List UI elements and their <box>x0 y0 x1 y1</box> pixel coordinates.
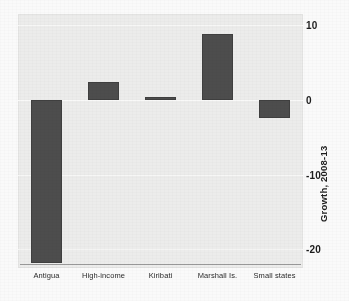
x-tick-label-high-income: High-income <box>82 271 125 280</box>
bar-high-income <box>88 82 119 100</box>
x-tick-label-antigua: Antigua <box>33 271 59 280</box>
chart-figure: 100-10-20 Growth, 2008-13 AntiguaHigh-in… <box>0 0 349 301</box>
x-tick-label-kiribati: Kiribati <box>149 271 173 280</box>
bar-series <box>18 14 303 268</box>
category-axis-line <box>20 264 301 265</box>
y-tick-label-0: 0 <box>306 94 312 105</box>
x-tick-label-small-states: Small states <box>253 271 295 280</box>
y-tick-label--20: -20 <box>306 244 321 255</box>
bar-antigua <box>31 100 62 263</box>
y-tick-label-10: 10 <box>306 20 318 31</box>
x-axis-tick-labels: AntiguaHigh-incomeKiribatiMarshall Is.Sm… <box>18 271 303 285</box>
plot-area <box>18 14 303 268</box>
bar-marshall-is <box>202 34 233 100</box>
bar-small-states <box>259 100 290 118</box>
x-tick-label-marshall-is: Marshall Is. <box>198 271 238 280</box>
y-axis-title: Growth, 2008-13 <box>318 92 329 222</box>
bar-kiribati <box>145 97 176 100</box>
